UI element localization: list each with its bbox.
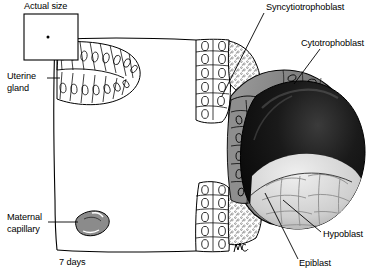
actual-size-box — [24, 14, 78, 60]
label-uterine-gland: Uterine gland — [7, 70, 36, 94]
label-epiblast: Epiblast — [299, 258, 331, 269]
label-seven-days: 7 days — [59, 257, 85, 268]
label-hypoblast: Hypoblast — [323, 229, 363, 240]
label-actual-size: Actual size — [24, 1, 67, 12]
maternal-capillary — [76, 211, 110, 236]
label-syncytiotrophoblast: Syncytiotrophoblast — [266, 2, 344, 13]
label-maternal-capillary: Maternal capillary — [7, 211, 42, 235]
actual-size-dot — [47, 36, 50, 39]
surface-epithelium-upper — [196, 39, 231, 123]
figure-canvas: Syncytiotrophoblast Cytotrophoblast Hypo… — [0, 0, 378, 276]
label-cytotrophoblast: Cytotrophoblast — [301, 38, 364, 49]
blastocyst-cavity — [240, 81, 365, 234]
surface-epithelium-lower — [196, 182, 230, 252]
